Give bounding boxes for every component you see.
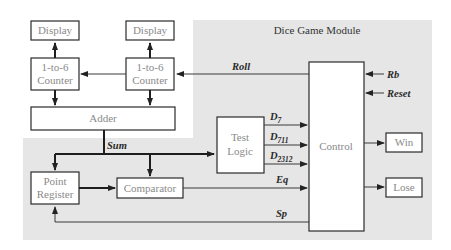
svg-text:Register: Register: [37, 188, 74, 200]
svg-text:Counter: Counter: [37, 74, 73, 86]
svg-text:1-to-6: 1-to-6: [42, 61, 69, 73]
svg-text:Display: Display: [38, 24, 73, 36]
sum-label: Sum: [107, 140, 127, 151]
svg-text:Comparator: Comparator: [124, 182, 177, 194]
svg-text:Test: Test: [231, 131, 249, 143]
control: Control: [309, 62, 364, 231]
rb-label: Rb: [386, 69, 399, 80]
roll-label: Roll: [231, 61, 250, 72]
display-1: Display: [31, 21, 79, 40]
svg-text:1-to-6: 1-to-6: [137, 61, 164, 73]
comparator: Comparator: [117, 178, 183, 198]
reset-label: Reset: [386, 88, 411, 99]
counter-1: 1-to-6 Counter: [31, 58, 79, 90]
svg-text:Adder: Adder: [89, 112, 117, 124]
svg-text:Win: Win: [395, 136, 414, 148]
svg-text:Logic: Logic: [227, 145, 253, 157]
test-logic: Test Logic: [217, 117, 264, 173]
eq-label: Eq: [275, 174, 288, 185]
display-2: Display: [126, 21, 174, 40]
svg-text:Point: Point: [43, 175, 66, 187]
win-output: Win: [386, 133, 422, 152]
svg-text:Lose: Lose: [393, 181, 415, 193]
svg-text:Control: Control: [319, 140, 353, 152]
svg-text:Counter: Counter: [132, 74, 168, 86]
counter-2: 1-to-6 Counter: [126, 58, 174, 90]
adder: Adder: [31, 107, 175, 130]
point-register: Point Register: [31, 172, 79, 204]
module-title: Dice Game Module: [274, 24, 361, 36]
lose-output: Lose: [386, 178, 422, 197]
sp-label: Sp: [276, 208, 287, 219]
dice-game-diagram: Dice Game Module Display Display 1-to-6 …: [0, 0, 451, 250]
svg-text:Display: Display: [133, 24, 168, 36]
